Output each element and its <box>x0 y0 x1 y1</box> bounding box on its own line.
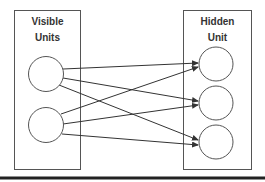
visible-label-line1: Visible <box>31 16 63 27</box>
edge-v2-h1 <box>61 67 198 114</box>
visible-unit-node-2 <box>29 108 64 143</box>
hidden-label-line2: Unit <box>208 32 228 43</box>
connections <box>59 63 198 145</box>
hidden-unit-node-3 <box>199 125 233 159</box>
edge-v2-h2 <box>63 105 198 124</box>
visible-unit-node-1 <box>29 57 64 92</box>
hidden-label-line1: Hidden <box>201 16 235 27</box>
edge-v2-h3 <box>62 134 198 145</box>
hidden-unit-node-2 <box>199 86 233 120</box>
visible-label-line2: Units <box>35 32 60 43</box>
edge-v1-h1 <box>63 63 198 69</box>
edge-v1-h2 <box>63 78 198 101</box>
rbm-diagram: Visible Units Hidden Unit <box>0 0 265 182</box>
edge-v1-h3 <box>59 85 198 140</box>
hidden-unit-node-1 <box>199 47 233 81</box>
